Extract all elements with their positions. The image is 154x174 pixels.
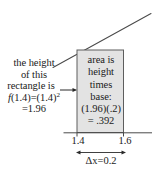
height-annotation-formula-line-1: f(1.4)=(1.4)2 (0, 92, 68, 104)
height-annotation-line-1: the height (0, 57, 68, 69)
area-annotation-line-5: (1.96)(.2) (78, 103, 124, 115)
area-annotation-line-1: area is (78, 54, 124, 66)
annotation-pointer-arrowhead (73, 88, 78, 92)
function-exponent: 2 (56, 90, 60, 98)
x-axis-label-left: 1.4 (66, 135, 90, 147)
area-annotation-line-4: base: (78, 91, 124, 103)
delta-x-label: Δx=0.2 (76, 155, 126, 167)
area-annotation-line-6: = .392 (78, 115, 124, 127)
function-argument: (1.4)=(1.4) (11, 92, 57, 103)
height-annotation: the height of this rectangle is f(1.4)=(… (0, 57, 68, 115)
riemann-rectangle-figure: the height of this rectangle is f(1.4)=(… (0, 0, 154, 174)
delta-x-arrowhead-left (76, 151, 81, 155)
height-annotation-formula-line-2: =1.96 (0, 103, 68, 115)
area-annotation-line-2: height (78, 66, 124, 78)
area-annotation: area is height times base: (1.96)(.2) = … (78, 54, 124, 128)
x-axis-label-right: 1.6 (113, 135, 137, 147)
area-annotation-line-3: times (78, 79, 124, 91)
height-annotation-line-2: of this (0, 69, 68, 81)
delta-x-arrowhead-right (122, 151, 127, 155)
